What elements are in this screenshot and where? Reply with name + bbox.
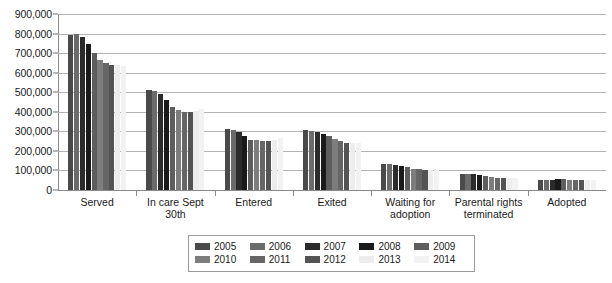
bar (260, 141, 265, 190)
bar (225, 129, 230, 190)
bar (303, 130, 308, 190)
bar-group (136, 14, 214, 190)
bar (109, 65, 114, 190)
bar-group (215, 14, 293, 190)
legend-item[interactable]: 2005 (195, 240, 250, 253)
legend-swatch-icon (359, 243, 374, 250)
bar (74, 34, 79, 190)
bar (512, 178, 517, 190)
bar (68, 35, 73, 190)
legend-swatch-icon (195, 256, 210, 263)
bar-group (58, 14, 136, 190)
legend-item[interactable]: 2007 (305, 240, 360, 253)
bar (544, 180, 549, 190)
legend-swatch-icon (414, 243, 429, 250)
x-axis-category-label: Served (58, 196, 136, 220)
bar-chart: 900,000800,000700,000600,000500,000400,0… (0, 0, 612, 283)
legend-swatch-icon (414, 256, 429, 263)
x-axis-category-label: Adopted (528, 196, 606, 220)
bar (555, 179, 560, 190)
y-axis-tick-label: 700,000 (15, 47, 52, 59)
legend-swatch-icon (195, 243, 210, 250)
bar (411, 169, 416, 191)
bar (97, 60, 102, 190)
x-axis-category-label: Exited (293, 196, 371, 220)
bar-groups (58, 14, 606, 190)
y-axis-tick-label: 300,000 (15, 125, 52, 137)
legend-label: 2011 (269, 254, 291, 265)
bar (103, 63, 108, 190)
legend-swatch-icon (250, 243, 265, 250)
bar (92, 53, 97, 190)
bar (146, 90, 151, 190)
bar (422, 170, 427, 190)
bar (489, 177, 494, 190)
y-axis-tick-label: 400,000 (15, 106, 52, 118)
legend-item[interactable]: 2014 (414, 253, 469, 266)
legend: 20052006200720082009 2010201120122013201… (188, 235, 475, 272)
x-axis-category-label: Parental rights terminated (449, 196, 527, 220)
legend-item[interactable]: 2008 (359, 240, 414, 253)
bar (236, 132, 241, 190)
y-axis-tick-label: 500,000 (15, 86, 52, 98)
legend-label: 2013 (378, 254, 400, 265)
bar (483, 176, 488, 190)
legend-item[interactable]: 2011 (250, 253, 305, 266)
bar (326, 136, 331, 190)
bar-group (449, 14, 527, 190)
legend-item[interactable]: 2010 (195, 253, 250, 266)
bar (164, 100, 169, 190)
y-axis-labels: 900,000800,000700,000600,000500,000400,0… (0, 14, 52, 190)
bar-group (293, 14, 371, 190)
y-axis-tick-label: 0 (46, 184, 52, 196)
legend-swatch-icon (250, 256, 265, 263)
bar (428, 170, 433, 190)
bar (550, 180, 555, 190)
bar (254, 140, 259, 190)
y-axis-tick-label: 600,000 (15, 67, 52, 79)
bar (315, 132, 320, 190)
bar (567, 180, 572, 190)
legend-label: 2007 (324, 241, 346, 252)
bar (405, 167, 410, 190)
bar (356, 143, 361, 190)
bar (182, 112, 187, 190)
bar (465, 174, 470, 190)
bar (579, 180, 584, 190)
legend-swatch-icon (305, 256, 320, 263)
legend-row-top: 20052006200720082009 (195, 240, 469, 253)
bar (121, 66, 126, 190)
bar (193, 111, 198, 190)
bar (248, 140, 253, 190)
bar (86, 44, 91, 190)
bar (332, 139, 337, 190)
bar (381, 164, 386, 190)
bar (460, 174, 465, 190)
bar (309, 131, 314, 190)
legend-item[interactable]: 2012 (305, 253, 360, 266)
bar (501, 178, 506, 190)
bar (176, 110, 181, 190)
bar (344, 143, 349, 190)
bar (80, 37, 85, 190)
y-axis-tick-label: 900,000 (15, 8, 52, 20)
bar (495, 178, 500, 190)
legend-label: 2006 (269, 241, 291, 252)
legend-label: 2009 (433, 241, 455, 252)
legend-item[interactable]: 2006 (250, 240, 305, 253)
bar (158, 94, 163, 190)
legend-item[interactable]: 2013 (359, 253, 414, 266)
legend-item[interactable]: 2009 (414, 240, 469, 253)
legend-label: 2014 (433, 254, 455, 265)
legend-label: 2012 (324, 254, 346, 265)
plot-area (58, 14, 606, 190)
legend-label: 2008 (378, 241, 400, 252)
y-axis-tick-label: 100,000 (15, 164, 52, 176)
legend-swatch-icon (305, 243, 320, 250)
bar (507, 178, 512, 190)
bar (387, 164, 392, 190)
x-axis-category-label: Waiting for adoption (371, 196, 449, 220)
bar (561, 179, 566, 190)
bar (266, 141, 271, 190)
bar (538, 180, 543, 190)
